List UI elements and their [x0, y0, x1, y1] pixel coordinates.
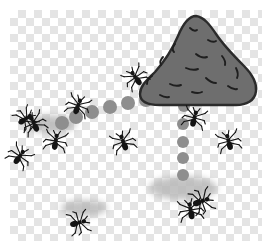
- ants-layer: [0, 0, 272, 251]
- illustration-canvas: [0, 0, 272, 251]
